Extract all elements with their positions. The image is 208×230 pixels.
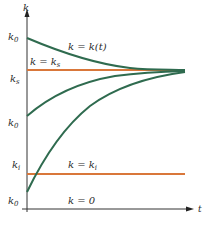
y-axis-label: k: [23, 2, 29, 13]
curve-increasing-from-k0-mid: [27, 71, 185, 116]
tick-k0-mid: k0: [8, 117, 19, 130]
zero-line-label: k = 0: [68, 195, 96, 206]
tick-k0-bot: k0: [8, 195, 19, 208]
x-axis-arrow-icon: [186, 207, 194, 212]
x-axis-label: t: [198, 204, 202, 214]
tick-ki: ki: [12, 159, 20, 172]
phase-diagram-chart: k t k0 ks k0 ki k0 k = k(t) k = ks k = k…: [0, 0, 208, 230]
tick-ks: ks: [10, 73, 20, 86]
curve-label-k-of-t: k = k(t): [68, 41, 107, 52]
tick-k0-top: k0: [8, 31, 19, 44]
ks-line-label: k = ks: [30, 56, 61, 69]
ki-line-label: k = ki: [68, 159, 97, 172]
